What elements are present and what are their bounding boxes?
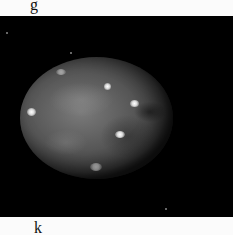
star xyxy=(70,52,72,54)
bright-spot xyxy=(104,83,111,90)
bright-spot xyxy=(27,108,36,116)
star xyxy=(6,32,8,34)
panel-label-bottom: k xyxy=(34,220,42,235)
bright-spot xyxy=(115,131,125,138)
panel-label-top: g xyxy=(30,0,38,13)
bright-spot xyxy=(90,163,102,171)
image-panel xyxy=(0,16,233,217)
bright-spot xyxy=(56,69,66,75)
bright-spot xyxy=(130,100,139,107)
star xyxy=(165,208,167,210)
moon-image xyxy=(20,57,173,179)
